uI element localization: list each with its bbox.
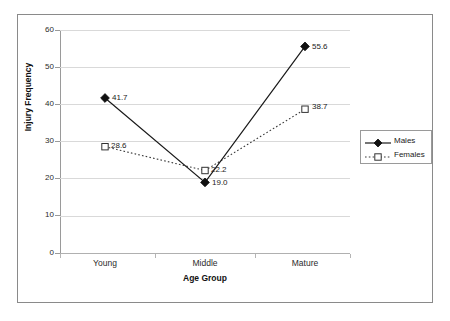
y-tick-label-0: 0 [20, 249, 54, 257]
marker-males-mature [301, 42, 310, 51]
y-tick-label-60: 60 [20, 26, 54, 34]
point-label-females-young: 28.6 [111, 142, 127, 150]
point-label-males-mature: 55.6 [312, 43, 328, 51]
y-axis-tick-labels: 60 50 40 30 20 10 0 [16, 0, 54, 321]
marker-females-young [102, 144, 108, 150]
legend-item-males: Males [361, 134, 431, 148]
y-tick-label-10: 10 [20, 211, 54, 219]
gridline-0-baseline [60, 253, 350, 254]
x-axis-tick [155, 254, 156, 258]
x-axis-tick [350, 254, 351, 258]
point-label-females-middle: 22.2 [211, 166, 227, 174]
legend-key-males-icon [364, 135, 392, 147]
series-line-females [105, 109, 305, 170]
legend-item-females: Females [361, 148, 431, 162]
y-tick-label-20: 20 [20, 174, 54, 182]
x-axis-title: Age Group [60, 273, 350, 283]
series-line-males [105, 46, 305, 182]
x-axis-tick [255, 254, 256, 258]
point-label-females-mature: 38.7 [312, 103, 328, 111]
x-tick-label-middle: Middle [160, 258, 250, 268]
plot-area: 41.7 19.0 55.6 28.6 22.2 38.7 [60, 30, 350, 253]
point-label-males-middle: 19.0 [212, 179, 228, 187]
marker-females-middle [202, 167, 208, 173]
y-axis-title: Injury Frequency [23, 37, 33, 157]
legend-label-females: Females [394, 151, 425, 159]
y-axis-title-wrap: Injury Frequency [0, 0, 1, 1]
marker-females-mature [302, 106, 308, 112]
point-label-males-young: 41.7 [112, 94, 128, 102]
legend-label-males: Males [394, 137, 415, 145]
series-plot [60, 30, 350, 253]
x-tick-label-young: Young [60, 258, 150, 268]
x-tick-label-mature: Mature [260, 258, 350, 268]
chart-figure: 60 50 40 30 20 10 0 Injury Frequency [0, 0, 450, 321]
chart-legend: Males Females [360, 130, 432, 164]
legend-key-females-icon [364, 149, 392, 161]
